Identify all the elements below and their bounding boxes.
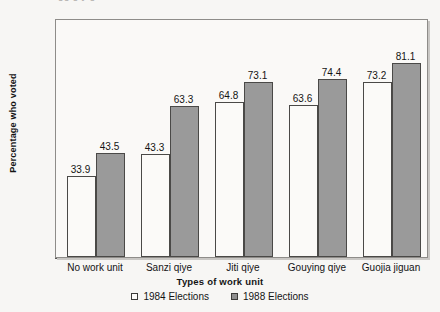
bar-value-label: 73.2 [367,70,386,81]
clipped-caption-fragment: gg g y g [58,0,318,1]
bar-value-label: 63.3 [174,94,193,105]
bar [289,105,318,257]
bar [392,63,421,257]
y-axis-title: Percentage who voted [8,38,18,208]
chart-legend: 1984 Elections1988 Elections [0,291,440,302]
bar [244,82,273,257]
bar [96,153,125,257]
bar-value-label: 43.5 [100,141,119,152]
bar-value-label: 64.8 [219,90,238,101]
bar [318,79,347,257]
x-axis-title: Types of work unit [0,276,440,287]
bar-value-label: 43.3 [145,142,164,153]
plot-area [55,19,428,258]
bar [363,82,392,257]
bar-value-label: 73.1 [248,70,267,81]
bar-value-label: 33.9 [71,164,90,175]
bar-value-label: 74.4 [322,67,341,78]
bar [141,154,170,257]
x-category-label: Sanzi qiye [146,262,192,273]
x-category-label: Gouying qiye [288,262,346,273]
bar [170,106,199,257]
x-category-label: Guojia jiguan [362,262,420,273]
legend-label: 1988 Elections [243,291,309,302]
legend-item[interactable]: 1984 Elections [131,291,209,302]
x-category-label: Jiti qiye [226,262,259,273]
y-tick-major [55,258,62,259]
bar [67,176,96,257]
bar-value-label: 81.1 [396,51,415,62]
x-category-label: No work unit [67,262,123,273]
bar [215,102,244,257]
bar-value-label: 63.6 [293,93,312,104]
bar-chart-figure: gg g y g Percentage who voted 0204060801… [0,0,440,312]
legend-swatch-icon [131,293,138,300]
legend-item[interactable]: 1988 Elections [231,291,309,302]
legend-swatch-icon [231,293,238,300]
legend-label: 1984 Elections [143,291,209,302]
